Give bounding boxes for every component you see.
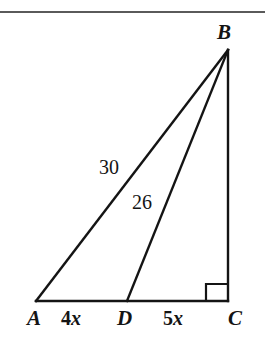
vertex-label-D: D [117,308,132,329]
base-length-label-DC: 5x [163,308,183,328]
triangle-drawing [0,0,265,347]
base-length-DC-coefficient: 5 [163,307,173,329]
base-length-DC-variable: x [173,307,183,329]
vertex-label-B: B [217,22,231,43]
vertex-label-C: C [228,308,242,329]
segment-AB [36,50,228,301]
length-label-DB: 26 [132,192,152,212]
right-angle-marker-icon [206,284,228,301]
segment-DB [127,50,228,301]
length-label-AB: 30 [99,157,119,177]
vertex-label-A: A [27,308,41,329]
base-length-label-AD: 4x [61,308,81,328]
base-length-AD-coefficient: 4 [61,307,71,329]
base-length-AD-variable: x [71,307,81,329]
geometry-figure: B A D C 30 26 4x 5x [0,0,265,347]
